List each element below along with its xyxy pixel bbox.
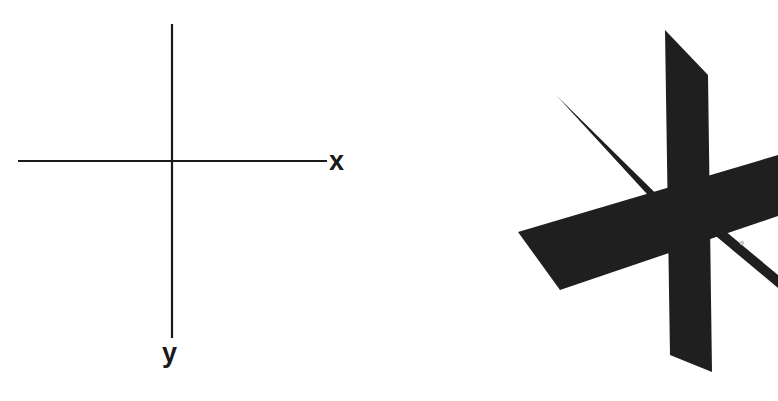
space-axes-drawing [400, 0, 778, 401]
space-coordinate-system-panel: z [400, 0, 778, 401]
highlight-dot [740, 241, 744, 245]
plane-coordinate-system-panel: x y [0, 0, 400, 401]
x-axis-label: x [329, 148, 344, 175]
x-axis-ribbon [518, 155, 778, 290]
figure-root: x y z [0, 0, 778, 401]
plane-axes-drawing [0, 0, 400, 401]
y-axis-label: y [162, 340, 177, 367]
